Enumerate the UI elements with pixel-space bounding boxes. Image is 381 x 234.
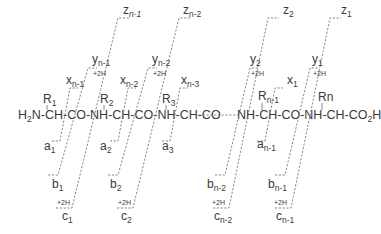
label-y-2: y2 bbox=[250, 52, 261, 68]
label-y-1: y1 bbox=[312, 52, 323, 68]
label-c-n-2: cn-2 bbox=[214, 209, 233, 225]
label-z-n-1: zn-1 bbox=[123, 3, 142, 19]
label-c-2: c2 bbox=[121, 209, 132, 225]
label-x-1: x1 bbox=[287, 73, 298, 89]
label-x-n-2: xn-2 bbox=[120, 73, 139, 89]
label-y-n-1: yn-1 bbox=[92, 52, 111, 68]
svg-text:Rn-1: Rn-1 bbox=[258, 89, 279, 105]
label-a-2: a2 bbox=[100, 139, 112, 155]
label-c-n-1: cn-1 bbox=[276, 209, 295, 225]
peptide-fragmentation-diagram: H2N-CH-CO-NH-CH-CO-NH-CH-CO NH-CH-CO-NH-… bbox=[0, 0, 381, 234]
label-b-n-2: bn-2 bbox=[207, 177, 226, 193]
label-b-n-1: bn-1 bbox=[268, 177, 287, 193]
side-chain-rn: Rn bbox=[318, 90, 333, 110]
label-x-n-1: xn-1 bbox=[66, 73, 85, 89]
label-b-2: b2 bbox=[110, 177, 122, 193]
label-y-n-2: yn-2 bbox=[152, 52, 171, 68]
svg-text:R1: R1 bbox=[43, 92, 57, 108]
mod-y-2: +2H bbox=[251, 70, 264, 77]
mod-c-n-1: +2H bbox=[274, 199, 287, 206]
backbone-left: H2N-CH-CO-NH-CH-CO-NH-CH-CO bbox=[18, 108, 221, 124]
mod-y-n-2: +2H bbox=[153, 70, 166, 77]
mod-c-n-2: +2H bbox=[212, 199, 225, 206]
label-b-1: b1 bbox=[52, 177, 64, 193]
mod-y-n-1: +2H bbox=[93, 70, 106, 77]
mod-c-1: +2H bbox=[57, 199, 70, 206]
svg-text:Rn: Rn bbox=[318, 90, 333, 104]
label-x-n-3: xn-3 bbox=[181, 73, 200, 89]
side-chain-rn-1: Rn-1 bbox=[258, 89, 279, 110]
svg-text:R3: R3 bbox=[162, 92, 176, 108]
label-z-1: z1 bbox=[341, 3, 352, 19]
svg-text:R2: R2 bbox=[100, 92, 114, 108]
label-z-n-2: zn-2 bbox=[183, 3, 202, 19]
label-z-2: z2 bbox=[283, 3, 294, 19]
label-c-1: c1 bbox=[62, 209, 73, 225]
label-a-n-1: an-1 bbox=[257, 137, 276, 153]
mod-y-1: +2H bbox=[313, 70, 326, 77]
mod-c-2: +2H bbox=[118, 199, 131, 206]
label-a-3: a3 bbox=[162, 139, 174, 155]
